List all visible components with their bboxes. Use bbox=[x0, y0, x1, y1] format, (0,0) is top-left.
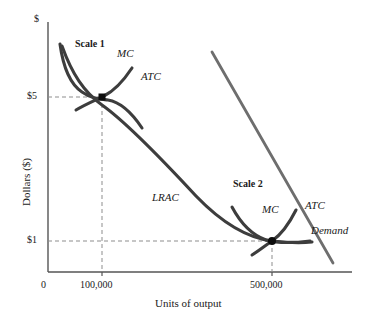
curve-scale2-mc bbox=[252, 210, 296, 255]
y-tick-label-5: $5 bbox=[27, 90, 37, 101]
y-tick-label-1: $1 bbox=[27, 234, 37, 245]
annotation-lrac: LRAC bbox=[152, 191, 179, 203]
annotation-scale-2: Scale 2 bbox=[233, 178, 263, 189]
y-axis-title: Dollars ($) bbox=[20, 158, 32, 206]
annotation-scale-1: Scale 1 bbox=[75, 38, 105, 49]
annotation-scale2-atc: ATC bbox=[305, 199, 325, 211]
x-tick-label-500000: 500,000 bbox=[250, 279, 283, 290]
chart-canvas bbox=[0, 0, 371, 319]
annotation-scale1-atc: ATC bbox=[141, 70, 161, 82]
x-origin-label: 0 bbox=[41, 279, 46, 290]
x-axis-title: Units of output bbox=[155, 297, 222, 309]
x-tick-label-100000: 100,000 bbox=[80, 279, 113, 290]
equilibrium-marker-scale1 bbox=[99, 94, 106, 101]
annotation-scale2-mc: MC bbox=[262, 203, 279, 215]
annotation-scale1-mc: MC bbox=[117, 47, 134, 59]
y-axis-title-wrap: Dollars ($) bbox=[4, 110, 22, 210]
economies-of-scale-chart: $ $5 $1 0 100,000 500,000 Units of outpu… bbox=[0, 0, 371, 319]
y-axis-currency-symbol: $ bbox=[34, 13, 39, 24]
equilibrium-marker-scale2 bbox=[268, 237, 276, 245]
annotation-demand: Demand bbox=[311, 224, 348, 236]
